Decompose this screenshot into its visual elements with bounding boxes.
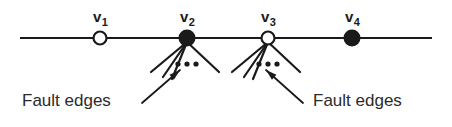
vertex-node-v1: [94, 32, 107, 45]
vertex-label-subscript: 4: [354, 16, 361, 28]
ellipsis-dot: [274, 61, 279, 66]
vertex-label-base: v: [93, 8, 102, 25]
vertex-node-v3: [262, 32, 275, 45]
diagram-canvas: v1v2v3v4 Fault edgesFault edges: [0, 0, 452, 127]
fault-edges-label-left: Fault edges: [22, 70, 180, 110]
fault-edges-label-right: Fault edges: [266, 70, 402, 110]
ellipsis-dot: [265, 61, 270, 66]
vertex-label-v3: v3: [261, 8, 276, 28]
ellipsis-dots-v3: [256, 61, 279, 66]
vertex-node-v2: [180, 31, 195, 46]
vertex-label-subscript: 1: [102, 16, 108, 28]
vertex-label-base: v: [180, 8, 189, 25]
vertex-label-subscript: 3: [270, 16, 276, 28]
vertex-label-v2: v2: [180, 8, 195, 28]
fault-edge-fan-v2: [151, 42, 219, 79]
vertex-label-v1: v1: [93, 8, 108, 28]
vertex-label-subscript: 2: [189, 16, 195, 28]
vertex-label-base: v: [345, 8, 354, 25]
fault-edges-diagram: v1v2v3v4 Fault edgesFault edges: [0, 0, 452, 127]
fault-edge-v2-4: [187, 42, 219, 72]
ellipsis-dot: [175, 61, 180, 66]
vertex-label-layer: v1v2v3v4: [93, 8, 361, 28]
fault-edge-v3-4: [268, 42, 300, 72]
vertex-node-v4: [345, 31, 360, 46]
vertex-label-v4: v4: [345, 8, 361, 28]
fault-edges-label-right-text: Fault edges: [313, 91, 402, 110]
annotation-layer: Fault edgesFault edges: [22, 70, 402, 110]
ellipsis-dot: [193, 61, 198, 66]
ellipsis-dot: [256, 61, 261, 66]
fault-edges-label-left-text: Fault edges: [22, 91, 111, 110]
fault-edge-fan-v3: [232, 42, 300, 79]
ellipsis-dots-v2: [175, 61, 198, 66]
vertex-label-base: v: [261, 8, 270, 25]
ellipsis-dot: [184, 61, 189, 66]
